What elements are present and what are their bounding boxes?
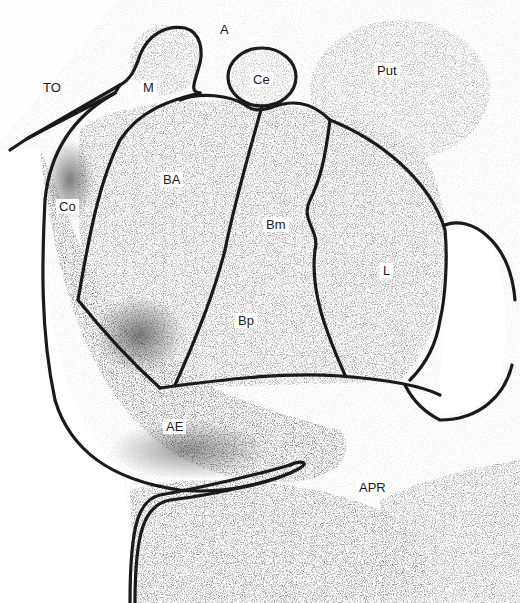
label-Bm: Bm	[263, 217, 289, 232]
label-BA: BA	[160, 172, 183, 187]
label-Ce: Ce	[250, 72, 273, 87]
label-TO: TO	[40, 80, 64, 95]
label-Bp: Bp	[235, 313, 257, 328]
tissue-section	[0, 0, 520, 603]
label-Co: Co	[56, 199, 79, 214]
label-M: M	[140, 80, 157, 95]
label-L: L	[380, 263, 393, 278]
label-Put: Put	[374, 63, 400, 78]
label-APR: APR	[356, 480, 389, 495]
histology-figure: TO M A Ce Put Co BA Bm L Bp AE APR	[0, 0, 520, 603]
label-A: A	[217, 22, 232, 37]
label-AE: AE	[163, 419, 186, 434]
